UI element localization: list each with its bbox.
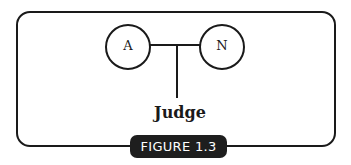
figure-caption-badge: FIGURE 1.3 xyxy=(130,135,227,158)
node-n-label: N xyxy=(207,38,237,53)
node-a-label: A xyxy=(113,38,143,53)
connector-label: Judge xyxy=(150,103,210,122)
